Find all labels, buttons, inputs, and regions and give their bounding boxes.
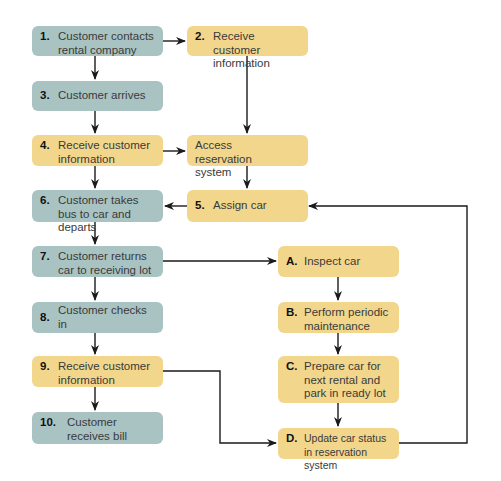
step-text: Assign car [213, 199, 267, 213]
step-number: 5. [195, 199, 213, 213]
node-8-customer-checks-in: 8. Customer checks in [32, 302, 163, 333]
node-9-receive-info: 9. Receive customer information [32, 356, 163, 387]
step-number: 6. [40, 194, 58, 208]
node-1-customer-contacts: 1. Customer contacts rental company [32, 26, 163, 56]
step-text: Customer takes bus to car and departs [58, 194, 157, 235]
step-text: Inspect car [304, 255, 360, 269]
step-text: Receive customer information [58, 360, 157, 387]
step-number: 8. [40, 311, 58, 325]
step-text: Update car status in reservation system [304, 432, 393, 473]
step-number: B. [286, 306, 304, 320]
node-a-inspect-car: A. Inspect car [278, 246, 399, 277]
node-c-prepare-car: C. Prepare car for next rental and park … [278, 356, 399, 403]
step-number: C. [286, 360, 304, 374]
step-text: Customer receives bill [67, 416, 137, 443]
step-text: Perform periodic maintenance [304, 306, 393, 333]
step-number: 10. [40, 416, 67, 430]
step-number: 1. [40, 30, 58, 44]
step-text: Access reservation system [195, 139, 290, 180]
node-access-reservation-system: Access reservation system [187, 135, 308, 166]
step-number: A. [286, 255, 304, 269]
node-10-customer-receives-bill: 10. Customer receives bill [32, 412, 163, 444]
connector-lines [0, 0, 501, 481]
step-number: 3. [40, 89, 58, 103]
step-text: Customer arrives [58, 89, 146, 103]
step-number: 4. [40, 139, 58, 153]
node-2-receive-info: 2. Receive customer information [187, 26, 308, 56]
node-3-customer-arrives: 3. Customer arrives [32, 81, 163, 111]
step-number: 7. [40, 250, 58, 264]
node-b-periodic-maintenance: B. Perform periodic maintenance [278, 302, 399, 333]
node-7-customer-returns: 7. Customer returns car to receiving lot [32, 246, 163, 277]
node-5-assign-car: 5. Assign car [187, 190, 308, 222]
step-number: 2. [195, 30, 213, 44]
step-text: Prepare car for next rental and park in … [304, 360, 392, 401]
step-number: D. [286, 432, 304, 446]
step-text: Customer contacts rental company [58, 30, 157, 57]
step-text: Customer checks in [58, 304, 157, 331]
step-text: Receive customer information [58, 139, 157, 166]
step-number: 9. [40, 360, 58, 374]
node-6-customer-departs: 6. Customer takes bus to car and departs [32, 190, 163, 222]
node-d-update-car-status: D. Update car status in reservation syst… [278, 428, 399, 459]
step-text: Receive customer information [213, 30, 302, 71]
node-4-receive-info: 4. Receive customer information [32, 135, 163, 166]
step-text: Customer returns car to receiving lot [58, 250, 157, 277]
